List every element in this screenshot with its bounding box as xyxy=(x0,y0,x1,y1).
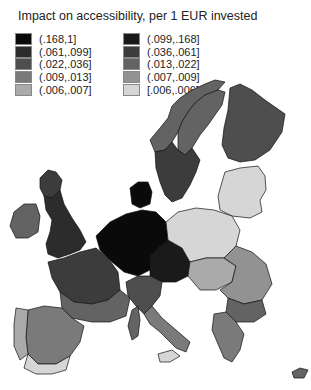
region-denmark xyxy=(130,182,152,208)
region-baltics xyxy=(218,166,266,218)
region-cyprus xyxy=(292,368,308,378)
region-italy-north xyxy=(126,276,162,314)
choropleth-map xyxy=(0,0,311,390)
region-sweden-south xyxy=(155,142,200,202)
region-ireland xyxy=(10,204,40,238)
region-portugal xyxy=(14,308,28,360)
region-italy-south xyxy=(144,306,190,352)
region-sardinia-corsica xyxy=(128,306,140,340)
region-sicily xyxy=(158,350,180,362)
region-finland xyxy=(222,84,285,162)
region-uk xyxy=(44,190,86,258)
